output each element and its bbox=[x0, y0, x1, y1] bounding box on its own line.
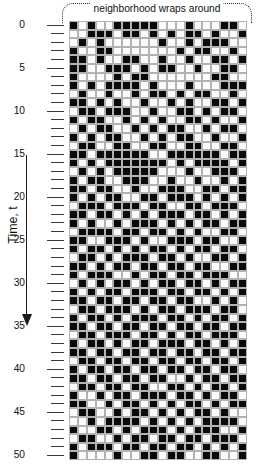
ca-cell bbox=[149, 107, 158, 116]
ca-cell bbox=[202, 55, 211, 64]
ca-cell bbox=[176, 124, 185, 133]
axis-tick-minor bbox=[51, 257, 64, 258]
ca-cell bbox=[78, 133, 87, 142]
ca-cell bbox=[229, 202, 238, 211]
ca-cell bbox=[229, 167, 238, 176]
ca-cell bbox=[185, 253, 194, 262]
ca-cell bbox=[131, 55, 140, 64]
ca-cell bbox=[69, 55, 78, 64]
ca-cell bbox=[238, 176, 247, 185]
ca-cell bbox=[185, 21, 194, 30]
ca-cell bbox=[167, 391, 176, 400]
ca-cell bbox=[202, 305, 211, 314]
ca-cell bbox=[149, 279, 158, 288]
ca-cell bbox=[202, 142, 211, 151]
ca-cell bbox=[211, 116, 220, 125]
ca-cell bbox=[78, 107, 87, 116]
wrap-annotation-label: neighborhood wraps around bbox=[91, 2, 224, 15]
ca-cell bbox=[167, 47, 176, 56]
ca-cell bbox=[202, 271, 211, 280]
ca-cell bbox=[202, 116, 211, 125]
ca-row bbox=[69, 185, 247, 194]
axis-tick-minor bbox=[51, 171, 64, 172]
ca-cell bbox=[167, 296, 176, 305]
ca-cell bbox=[202, 253, 211, 262]
ca-cell bbox=[229, 38, 238, 47]
ca-cell bbox=[185, 133, 194, 142]
ca-cell bbox=[167, 193, 176, 202]
ca-cell bbox=[211, 262, 220, 271]
ca-cell bbox=[105, 400, 114, 409]
ca-cell bbox=[202, 202, 211, 211]
ca-cell bbox=[96, 21, 105, 30]
ca-cell bbox=[105, 339, 114, 348]
ca-cell bbox=[96, 90, 105, 99]
ca-cell bbox=[78, 202, 87, 211]
ca-cell bbox=[149, 408, 158, 417]
ca-cell bbox=[131, 245, 140, 254]
ca-cell bbox=[194, 64, 203, 73]
ca-cell bbox=[229, 150, 238, 159]
axis-tick-minor bbox=[51, 128, 64, 129]
ca-cell bbox=[229, 73, 238, 82]
ca-cell bbox=[202, 391, 211, 400]
axis-tick-label: 10 bbox=[14, 106, 25, 116]
ca-cell bbox=[105, 348, 114, 357]
axis-tick-minor bbox=[51, 420, 64, 421]
ca-cell bbox=[140, 219, 149, 228]
ca-cell bbox=[176, 150, 185, 159]
ca-cell bbox=[96, 391, 105, 400]
ca-cell bbox=[69, 253, 78, 262]
ca-cell bbox=[229, 391, 238, 400]
axis-tick-major bbox=[47, 154, 64, 155]
ca-cell bbox=[194, 210, 203, 219]
ca-cell bbox=[167, 124, 176, 133]
ca-cell bbox=[69, 90, 78, 99]
ca-cell bbox=[194, 38, 203, 47]
ca-cell bbox=[176, 288, 185, 297]
ca-cell bbox=[78, 38, 87, 47]
ca-cell bbox=[131, 262, 140, 271]
ca-cell bbox=[220, 348, 229, 357]
ca-cell bbox=[229, 21, 238, 30]
ca-cell bbox=[96, 193, 105, 202]
ca-cell bbox=[158, 30, 167, 39]
ca-cell bbox=[194, 21, 203, 30]
ca-cell bbox=[122, 322, 131, 331]
ca-cell bbox=[140, 236, 149, 245]
ca-cell bbox=[78, 150, 87, 159]
ca-cell bbox=[122, 408, 131, 417]
ca-row bbox=[69, 81, 247, 90]
ca-cell bbox=[158, 426, 167, 435]
ca-cell bbox=[149, 142, 158, 151]
ca-cell bbox=[158, 202, 167, 211]
ca-cell bbox=[122, 81, 131, 90]
ca-cell bbox=[167, 357, 176, 366]
ca-cell bbox=[194, 90, 203, 99]
ca-row bbox=[69, 262, 247, 271]
ca-row bbox=[69, 159, 247, 168]
ca-cell bbox=[69, 30, 78, 39]
ca-cell bbox=[211, 176, 220, 185]
ca-cell bbox=[238, 408, 247, 417]
ca-cell bbox=[149, 219, 158, 228]
ca-cell bbox=[220, 305, 229, 314]
ca-cell bbox=[238, 426, 247, 435]
ca-cell bbox=[194, 73, 203, 82]
ca-cell bbox=[149, 314, 158, 323]
ca-cell bbox=[176, 90, 185, 99]
ca-cell bbox=[122, 150, 131, 159]
ca-cell bbox=[122, 116, 131, 125]
ca-cell bbox=[140, 142, 149, 151]
ca-cell bbox=[238, 81, 247, 90]
ca-cell bbox=[238, 245, 247, 254]
ca-cell bbox=[211, 236, 220, 245]
ca-cell bbox=[96, 81, 105, 90]
ca-cell bbox=[176, 210, 185, 219]
ca-cell bbox=[149, 176, 158, 185]
ca-cell bbox=[185, 73, 194, 82]
ca-row bbox=[69, 400, 247, 409]
ca-cell bbox=[229, 185, 238, 194]
ca-cell bbox=[69, 305, 78, 314]
axis-tick-minor bbox=[51, 403, 64, 404]
